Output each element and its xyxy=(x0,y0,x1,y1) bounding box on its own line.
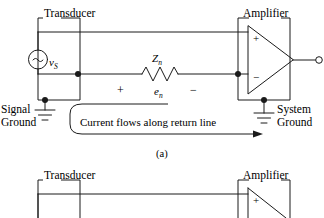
opamp-minus-label-a: − xyxy=(253,67,259,85)
polarity-minus-label: − xyxy=(190,80,197,98)
amplifier-label-b: Amplifier xyxy=(243,165,288,183)
source-voltage-label: vS xyxy=(49,52,58,70)
signal-ground-line2: Ground xyxy=(1,116,36,129)
system-ground-line1: System xyxy=(277,103,312,116)
transducer-label-b: Transducer xyxy=(44,165,95,183)
panel-a-caption: (a) xyxy=(156,143,168,161)
system-ground-line2: Ground xyxy=(277,116,312,129)
opamp-plus-label-b: + xyxy=(253,190,259,208)
amplifier-label-a: Amplifier xyxy=(243,3,288,21)
system-ground-label: System Ground xyxy=(277,103,312,129)
noise-voltage-label: en xyxy=(154,81,163,99)
amplifier-box-b xyxy=(238,180,290,218)
transducer-box-a xyxy=(38,18,80,100)
signal-ground-line1: Signal xyxy=(1,103,36,116)
opamp-plus-label-a: + xyxy=(253,28,259,46)
circuit-diagram-svg xyxy=(0,0,324,218)
circuit-figure: Transducer Amplifier vS Zn en + − + − Si… xyxy=(0,0,324,218)
transducer-box-b xyxy=(38,180,80,218)
amplifier-box-a xyxy=(238,18,290,100)
polarity-plus-label: + xyxy=(117,80,124,98)
arrow-right-icon xyxy=(253,131,263,138)
signal-ground-label: Signal Ground xyxy=(1,103,36,129)
resistor-zigzag-icon xyxy=(142,67,178,81)
system-ground-symbol xyxy=(254,113,274,123)
impedance-label: Zn xyxy=(152,48,162,66)
output-terminal-a[interactable] xyxy=(316,57,323,64)
transducer-label-a: Transducer xyxy=(44,3,95,21)
signal-ground-symbol xyxy=(35,110,55,120)
current-flow-annotation: Current flows along return line xyxy=(80,112,216,130)
